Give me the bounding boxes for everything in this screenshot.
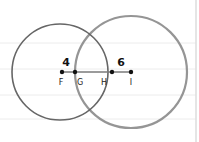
label-f: F [59,78,64,87]
label-g: G [77,78,83,87]
circles-diagram: 4 6 F G H I [0,0,199,142]
point-g [73,70,77,74]
measurement-fg: 4 [62,56,70,69]
point-f [60,70,64,74]
measurement-hi: 6 [117,56,125,69]
point-h [110,70,114,74]
label-i: I [130,78,132,87]
paper-lines [0,0,196,142]
label-h: H [101,78,107,87]
point-i [129,70,133,74]
